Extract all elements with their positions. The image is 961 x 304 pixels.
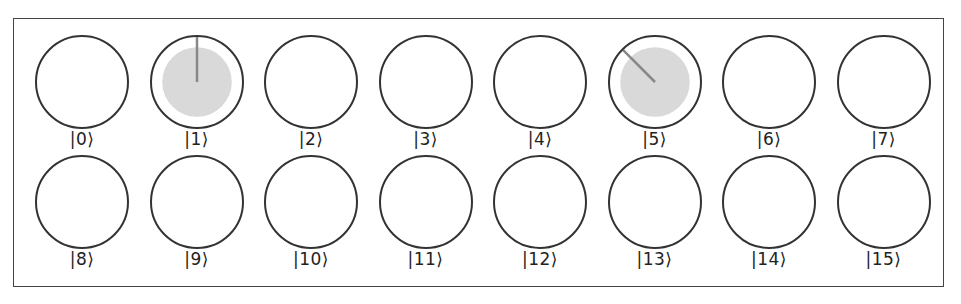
state-circle-3: |3⟩ bbox=[376, 32, 476, 156]
state-circle-2: |2⟩ bbox=[261, 32, 361, 156]
state-circle-5: |5⟩ bbox=[605, 32, 705, 156]
state-label: |6⟩ bbox=[719, 129, 819, 149]
state-circle-12: |12⟩ bbox=[490, 152, 590, 276]
state-circle-15: |15⟩ bbox=[834, 152, 934, 276]
state-label: |11⟩ bbox=[376, 249, 476, 269]
state-label: |3⟩ bbox=[376, 129, 476, 149]
state-circle-8: |8⟩ bbox=[32, 152, 132, 276]
state-label: |8⟩ bbox=[32, 249, 132, 269]
state-circle-6: |6⟩ bbox=[719, 32, 819, 156]
state-circle-4: |4⟩ bbox=[490, 32, 590, 156]
state-circle-7: |7⟩ bbox=[834, 32, 934, 156]
state-label: |12⟩ bbox=[490, 249, 590, 269]
state-label: |2⟩ bbox=[261, 129, 361, 149]
state-label: |7⟩ bbox=[834, 129, 934, 149]
state-label: |10⟩ bbox=[261, 249, 361, 269]
state-circle-11: |11⟩ bbox=[376, 152, 476, 276]
state-label: |15⟩ bbox=[834, 249, 934, 269]
state-label: |0⟩ bbox=[32, 129, 132, 149]
state-label: |9⟩ bbox=[147, 249, 247, 269]
state-circle-1: |1⟩ bbox=[147, 32, 247, 156]
state-label: |13⟩ bbox=[605, 249, 705, 269]
state-label: |4⟩ bbox=[490, 129, 590, 149]
state-circle-13: |13⟩ bbox=[605, 152, 705, 276]
state-circle-9: |9⟩ bbox=[147, 152, 247, 276]
state-circle-14: |14⟩ bbox=[719, 152, 819, 276]
state-circle-10: |10⟩ bbox=[261, 152, 361, 276]
state-label: |5⟩ bbox=[605, 129, 705, 149]
state-label: |1⟩ bbox=[147, 129, 247, 149]
state-circle-0: |0⟩ bbox=[32, 32, 132, 156]
state-label: |14⟩ bbox=[719, 249, 819, 269]
